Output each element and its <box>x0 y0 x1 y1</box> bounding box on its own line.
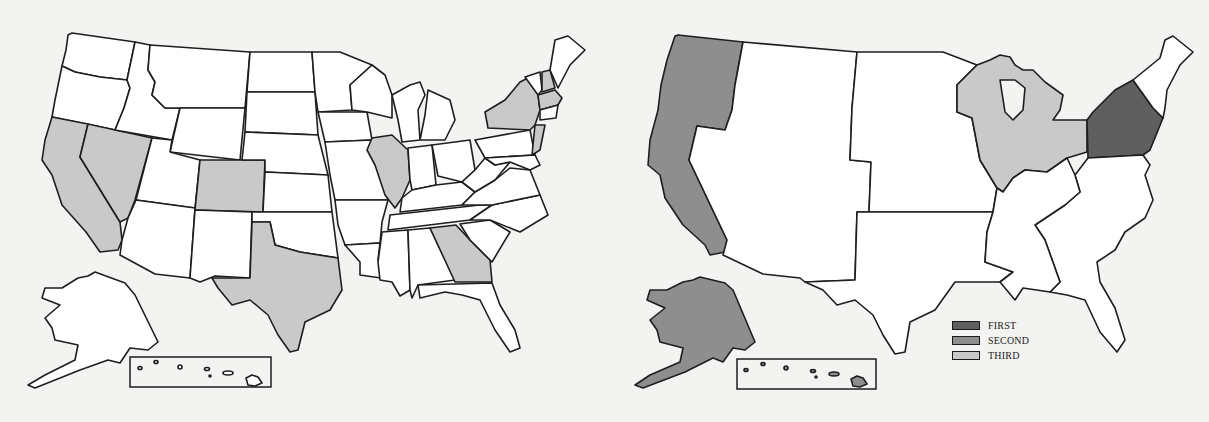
right-map-svg <box>605 0 1209 422</box>
state-pennsylvania <box>475 130 535 158</box>
legend-label: THIRD <box>988 350 1020 361</box>
legend-item-second: SECOND <box>952 333 1029 348</box>
legend-label: FIRST <box>988 320 1016 331</box>
state-indiana <box>408 145 436 190</box>
state-north-dakota <box>247 52 315 92</box>
legend-swatch-first <box>952 321 980 330</box>
legend-label: SECOND <box>988 335 1029 346</box>
legend-swatch-third <box>952 351 980 360</box>
state-maine <box>550 36 585 88</box>
state-mississippi <box>378 230 410 296</box>
state-iowa <box>318 112 372 142</box>
state-arizona <box>120 200 195 278</box>
state-new-jersey[interactable] <box>532 125 545 155</box>
hawaii-islands <box>138 361 262 387</box>
state-colorado[interactable] <box>195 160 265 212</box>
state-florida <box>418 283 520 352</box>
legend-swatch-second <box>952 336 980 345</box>
left-states-map <box>0 0 600 422</box>
state-alaska <box>28 272 158 388</box>
state-new-mexico <box>190 210 252 282</box>
state-montana <box>148 45 250 108</box>
state-arkansas <box>335 200 388 245</box>
map-legend: FIRST SECOND THIRD <box>952 318 1029 363</box>
legend-item-third: THIRD <box>952 348 1029 363</box>
hawaii-islands-right[interactable] <box>744 363 867 388</box>
state-wyoming <box>170 108 245 160</box>
left-map-svg <box>0 0 600 422</box>
right-regions-map <box>605 0 1209 422</box>
legend-item-first: FIRST <box>952 318 1029 333</box>
state-south-dakota <box>245 92 318 135</box>
state-michigan <box>392 82 455 142</box>
state-kansas <box>263 172 332 212</box>
